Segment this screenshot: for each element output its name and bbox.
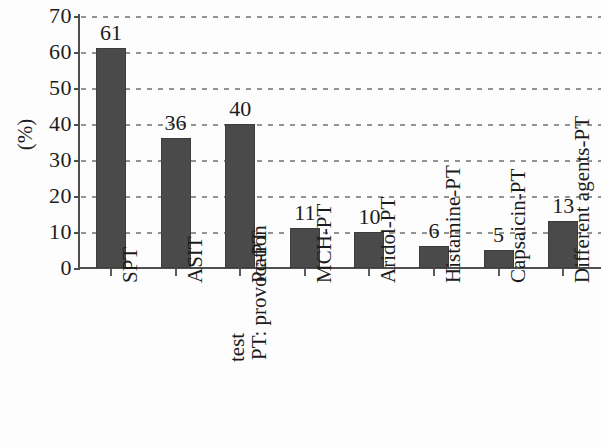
y-axis-tick-label: 70 [10, 5, 72, 27]
x-axis-category-label: SPT [119, 247, 142, 283]
y-axis-tick-label: 40 [10, 113, 72, 135]
x-axis-category-label: Different agents-PT [571, 116, 594, 283]
x-axis-annotation-line2: test [226, 333, 249, 362]
y-axis-tick-label: 30 [10, 149, 72, 171]
y-axis-tick-mark [74, 196, 80, 198]
x-axis-category-label: MCH-PT [313, 204, 336, 283]
y-axis-tick-mark [74, 16, 80, 18]
x-axis-tick-mark [239, 269, 241, 276]
y-axis-tick-mark [74, 52, 80, 54]
x-axis-category-label: Aridol-PT [377, 197, 400, 283]
y-axis-tick-mark [74, 124, 80, 126]
gridline [78, 52, 601, 54]
x-axis-tick-mark [562, 269, 564, 276]
x-axis-tick-mark [304, 269, 306, 276]
y-axis-tick-label: 0 [10, 257, 72, 279]
gridline [78, 16, 601, 18]
y-axis-tick-label: 60 [10, 41, 72, 63]
y-axis-tick-label: 50 [10, 77, 72, 99]
bar-value-label: 61 [81, 22, 141, 44]
gridline [78, 88, 601, 90]
y-axis-tick-label: 20 [10, 185, 72, 207]
y-axis-tick-labels: 706050403020100 [0, 0, 72, 447]
y-axis-tick-label: 10 [10, 221, 72, 243]
y-axis-tick-mark [74, 160, 80, 162]
x-axis-category-label: ASIT [184, 236, 207, 283]
y-axis-tick-mark [74, 88, 80, 90]
x-axis-category-label: Histamine-PT [442, 165, 465, 283]
x-axis-tick-mark [368, 269, 370, 276]
y-axis-tick-mark [74, 268, 80, 270]
x-axis-annotation-line1: PT: provocation [248, 225, 271, 360]
x-axis-tick-mark [110, 269, 112, 276]
x-axis-category-label: Capsaicin-PT [507, 169, 530, 283]
gridline [78, 160, 601, 162]
bar[interactable] [96, 48, 126, 268]
x-axis-tick-mark [433, 269, 435, 276]
x-axis-tick-mark [498, 269, 500, 276]
x-axis-tick-mark [175, 269, 177, 276]
bar-value-label: 36 [146, 112, 206, 134]
bar-chart-figure: (%) 706050403020100 61SPT36ASIT40Pc-PT11… [0, 0, 601, 447]
y-axis-tick-mark [74, 232, 80, 234]
bar-value-label: 40 [210, 98, 270, 120]
